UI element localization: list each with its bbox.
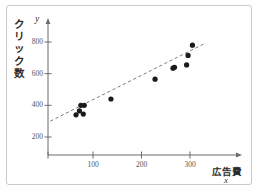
data-point xyxy=(81,111,86,116)
x-axis-arrow xyxy=(236,153,242,158)
x-tick-label: 100 xyxy=(81,160,105,169)
data-point xyxy=(108,96,113,101)
data-point xyxy=(82,103,87,108)
y-axis-arrow xyxy=(46,18,51,24)
x-tick-label: 300 xyxy=(178,160,202,169)
y-tick-label: 600 xyxy=(22,69,43,78)
chart-figure: ク リ ッ ク 数 y 広告費 x 200400600800100200300 xyxy=(0,0,259,192)
y-tick-label: 200 xyxy=(22,132,43,141)
data-point xyxy=(190,43,195,48)
x-tick-label: 200 xyxy=(130,160,154,169)
data-point xyxy=(184,62,189,67)
y-tick-label: 800 xyxy=(22,37,43,46)
regression-trendline xyxy=(50,44,204,122)
data-point xyxy=(172,65,177,70)
data-point xyxy=(185,53,190,58)
data-point xyxy=(73,112,78,117)
data-point xyxy=(152,77,157,82)
y-tick-label: 400 xyxy=(22,100,43,109)
